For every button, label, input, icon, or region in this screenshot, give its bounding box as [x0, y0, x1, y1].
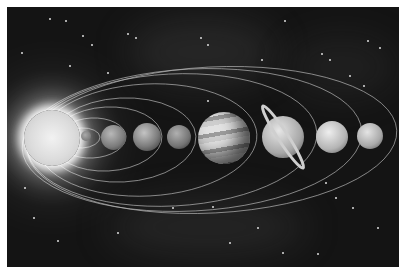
space-image — [7, 7, 399, 267]
planet-uranus — [316, 121, 348, 153]
planet-neptune — [357, 123, 383, 149]
